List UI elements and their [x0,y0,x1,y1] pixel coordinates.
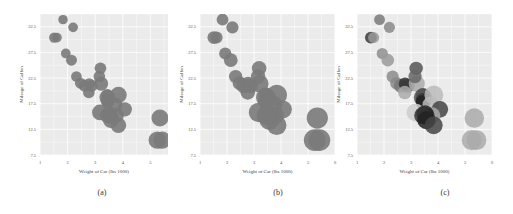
data-point [110,87,126,103]
chart-panel-c: 1234567.512.517.522.527.532.5Weight of C… [335,0,513,214]
data-point [224,53,238,67]
x-tick-label: 6 [491,160,494,165]
data-point [374,14,385,25]
data-point [153,131,170,148]
data-point [151,110,168,127]
y-tick-label: 22.5 [28,76,37,81]
y-tick-label: 27.5 [188,50,197,55]
y-tick-label: 22.5 [345,76,354,81]
caption-a: (a) [82,188,122,197]
y-tick-label: 17.5 [345,101,354,106]
scatter-plot-c: 1234567.512.517.522.527.532.5Weight of C… [335,0,513,180]
data-point [111,117,127,133]
y-tick-label: 27.5 [28,50,37,55]
data-point [467,130,487,150]
x-tick-label: 2 [66,160,68,165]
x-tick-label: 2 [226,160,228,165]
data-point [408,70,421,83]
data-point [52,33,62,43]
data-point [94,71,106,83]
x-tick-label: 4 [437,160,440,165]
y-tick-label: 32.5 [188,24,197,29]
data-point [465,108,485,128]
y-tick-label: 32.5 [28,24,37,29]
data-point [58,15,67,24]
data-point [425,116,443,134]
x-tick-label: 1 [39,160,41,165]
data-point [251,69,265,83]
x-tick-label: 1 [199,160,201,165]
data-point [307,107,328,128]
x-tick-label: 2 [383,160,385,165]
data-point [211,32,223,44]
data-point [309,129,331,151]
data-point [368,32,379,43]
x-tick-label: 3 [94,160,97,165]
data-point [398,86,411,99]
chart-panel-b: 1234567.512.517.522.527.532.5Weight of C… [170,0,340,214]
data-point [226,21,238,33]
chart-panel-a: 1234567.512.517.522.527.532.5Weight of C… [0,0,175,214]
data-point [68,22,78,32]
x-axis-label: Weight of Car (lbs 1000) [400,169,450,174]
data-point [267,115,287,135]
caption-c: (c) [425,188,465,197]
x-axis-label: Weight of Car (lbs 1000) [243,169,293,174]
y-tick-label: 17.5 [188,101,197,106]
y-tick-label: 17.5 [28,101,37,106]
y-tick-label: 7.5 [30,153,36,158]
data-point [83,87,95,99]
data-point [241,85,256,100]
x-tick-label: 5 [149,160,152,165]
x-tick-label: 1 [356,160,358,165]
data-point [384,22,395,33]
y-tick-label: 32.5 [345,24,354,29]
x-tick-label: 5 [307,160,310,165]
data-point [66,55,77,66]
y-tick-label: 12.5 [345,127,354,132]
y-axis-label: Mileage of Gallon [336,66,341,103]
y-axis-label: Mileage of Gallon [179,66,184,103]
y-tick-label: 7.5 [347,153,353,158]
scatter-plot-b: 1234567.512.517.522.527.532.5Weight of C… [170,0,340,180]
x-tick-label: 3 [253,160,256,165]
y-axis-label: Mileage of Gallon [19,66,24,103]
y-tick-label: 22.5 [188,76,197,81]
scatter-plot-a: 1234567.512.517.522.527.532.5Weight of C… [0,0,175,180]
y-tick-label: 7.5 [190,153,196,158]
y-tick-label: 12.5 [28,127,37,132]
caption-b: (b) [258,188,298,197]
data-point [217,14,229,26]
y-tick-label: 12.5 [188,127,197,132]
x-tick-label: 5 [464,160,467,165]
data-point [381,54,394,67]
x-axis-label: Weight of Car (lbs 1000) [79,169,129,174]
x-tick-label: 4 [122,160,125,165]
x-tick-label: 4 [280,160,283,165]
x-tick-label: 3 [410,160,413,165]
y-tick-label: 27.5 [345,50,354,55]
